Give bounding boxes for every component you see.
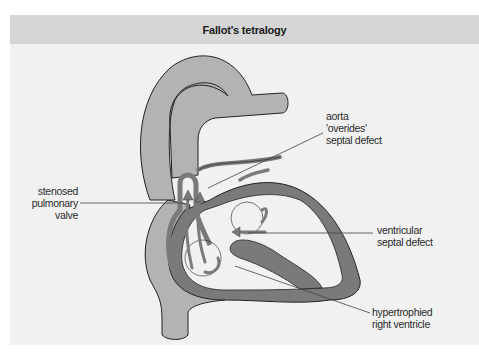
label-line: valve <box>20 209 78 221</box>
label-line: septal defect <box>377 236 433 248</box>
label-aorta-overrides: aorta 'overides' septal defect <box>326 110 382 146</box>
label-line: ventricular <box>377 224 433 236</box>
label-line: stenosed <box>20 185 78 197</box>
label-line: right ventricle <box>372 318 432 330</box>
heart-diagram <box>0 0 479 354</box>
pulmonary-artery <box>198 157 280 170</box>
aortic-arch <box>140 56 288 200</box>
label-ventricular-septal-defect: ventricular septal defect <box>377 224 433 248</box>
label-line: septal defect <box>326 134 382 146</box>
label-hypertrophied-right-ventricle: hypertrophied right ventricle <box>372 306 432 330</box>
label-line: aorta <box>326 110 382 122</box>
label-line: pulmonary <box>20 197 78 209</box>
label-stenosed-pulmonary-valve: stenosed pulmonary valve <box>20 185 78 221</box>
label-line: 'overides' <box>326 122 382 134</box>
label-line: hypertrophied <box>372 306 432 318</box>
